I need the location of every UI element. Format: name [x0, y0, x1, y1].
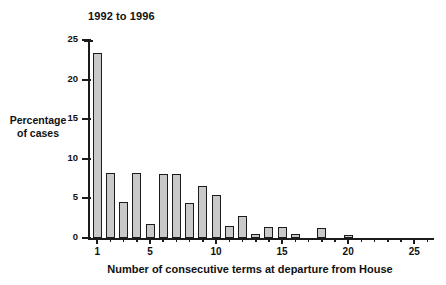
x-tick-10: 10 — [215, 238, 217, 244]
x-tick-19 — [334, 238, 336, 242]
x-tick-label-20: 20 — [343, 246, 354, 257]
x-tick-2 — [110, 238, 112, 242]
x-tick-8 — [189, 238, 191, 242]
bar-5 — [146, 224, 155, 238]
x-tick-14 — [268, 238, 270, 242]
x-tick-label-1: 1 — [94, 246, 100, 257]
bar-4 — [132, 173, 141, 238]
bar-6 — [159, 174, 168, 238]
bar-3 — [119, 202, 128, 238]
x-tick-16 — [295, 238, 297, 242]
plot-area: 0510152025 1510152025 — [88, 38, 436, 240]
y-tick-label-15: 15 — [67, 112, 78, 123]
y-tick-15: 15 — [82, 118, 91, 120]
x-tick-label-10: 10 — [211, 246, 222, 257]
x-tick-label-15: 15 — [277, 246, 288, 257]
y-tick-10: 10 — [82, 158, 91, 160]
x-tick-label-25: 25 — [409, 246, 420, 257]
x-tick-13 — [255, 238, 257, 242]
bar-20 — [344, 235, 353, 238]
x-tick-label-5: 5 — [147, 246, 153, 257]
x-tick-1: 1 — [96, 238, 98, 244]
x-tick-22 — [374, 238, 376, 242]
bar-12 — [238, 216, 247, 238]
bar-10 — [212, 195, 221, 238]
x-tick-25: 25 — [413, 238, 415, 244]
bar-18 — [317, 228, 326, 238]
y-tick-label-5: 5 — [73, 191, 78, 202]
x-axis-label: Number of consecutive terms at departure… — [60, 263, 440, 275]
x-tick-9 — [202, 238, 204, 242]
x-tick-7 — [176, 238, 178, 242]
x-tick-6 — [162, 238, 164, 242]
x-tick-20: 20 — [347, 238, 349, 244]
bar-13 — [251, 234, 260, 238]
y-tick-label-0: 0 — [73, 231, 78, 242]
y-axis-label: Percentage of cases — [2, 114, 74, 140]
x-tick-15: 15 — [281, 238, 283, 244]
y-axis-line — [88, 40, 90, 238]
bar-14 — [264, 227, 273, 238]
x-tick-5: 5 — [149, 238, 151, 244]
y-axis-cap — [84, 40, 93, 42]
x-tick-21 — [361, 238, 363, 242]
chart-figure: 1992 to 1996 Percentage of cases 0510152… — [0, 0, 446, 285]
y-tick-0: 0 — [82, 237, 91, 239]
y-axis-label-line1: Percentage — [10, 114, 67, 126]
bar-7 — [172, 174, 181, 238]
chart-title: 1992 to 1996 — [88, 10, 155, 22]
bar-11 — [225, 226, 234, 238]
x-tick-24 — [400, 238, 402, 242]
bar-16 — [291, 234, 300, 238]
x-tick-23 — [387, 238, 389, 242]
y-tick-label-25: 25 — [67, 33, 78, 44]
y-axis-label-line2: of cases — [2, 127, 74, 140]
x-tick-4 — [136, 238, 138, 242]
x-tick-12 — [242, 238, 244, 242]
x-tick-3 — [123, 238, 125, 242]
bar-2 — [106, 173, 115, 238]
x-axis-line — [88, 238, 434, 240]
x-tick-17 — [308, 238, 310, 242]
bar-15 — [278, 227, 287, 238]
bar-1 — [93, 53, 102, 238]
x-tick-26 — [427, 238, 429, 242]
y-tick-5: 5 — [82, 197, 91, 199]
x-tick-11 — [229, 238, 231, 242]
y-tick-label-20: 20 — [67, 73, 78, 84]
bar-9 — [198, 186, 207, 238]
bar-8 — [185, 203, 194, 238]
y-tick-label-10: 10 — [67, 152, 78, 163]
x-tick-18 — [321, 238, 323, 242]
y-tick-20: 20 — [82, 79, 91, 81]
